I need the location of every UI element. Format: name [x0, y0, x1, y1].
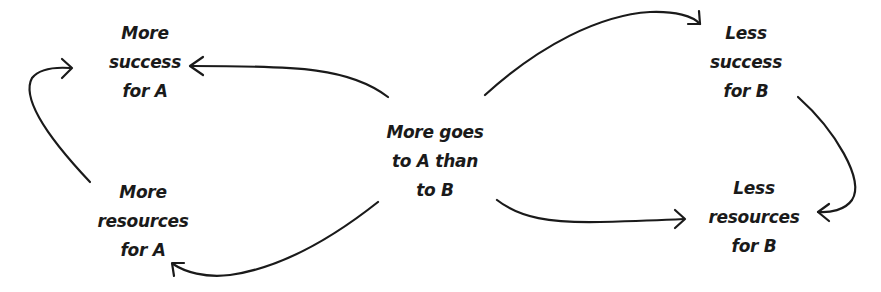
node-line: success — [85, 48, 205, 77]
node-line: for A — [83, 236, 203, 265]
node-line: More — [85, 19, 205, 48]
node-more-success-for-a: More success for A — [85, 19, 205, 106]
node-more-goes-to-a-than-to-b: More goes to A than to B — [360, 118, 510, 205]
node-more-resources-for-a: More resources for A — [83, 178, 203, 265]
node-line: for B — [686, 77, 806, 106]
arrow-center-to-success-a — [190, 57, 388, 97]
node-line: success — [686, 48, 806, 77]
node-less-resources-for-b: Less resources for B — [694, 174, 814, 261]
node-line: to B — [360, 176, 510, 205]
node-line: resources — [694, 203, 814, 232]
node-line: More — [83, 178, 203, 207]
node-line: Less — [694, 174, 814, 203]
arrow-resources-a-to-success-a — [30, 59, 90, 182]
node-less-success-for-b: Less success for B — [686, 19, 806, 106]
node-line: More goes — [360, 118, 510, 147]
arrow-center-to-success-b — [485, 11, 700, 95]
node-line: Less — [686, 19, 806, 48]
node-line: for A — [85, 77, 205, 106]
node-line: to A than — [360, 147, 510, 176]
node-line: for B — [694, 232, 814, 261]
arrow-center-to-resources-b — [497, 200, 685, 228]
node-line: resources — [83, 207, 203, 236]
